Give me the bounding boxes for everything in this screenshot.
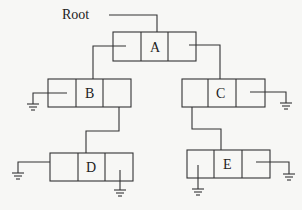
ground-icon [192,165,204,195]
node-C: C [182,79,265,107]
edge-A-C [189,45,220,79]
ground-icon [114,170,126,196]
edge-C-E [192,107,221,150]
tree-diagram: Root A B C D [0,0,302,210]
node-label: B [85,86,94,101]
root-pointer [109,15,157,32]
ground-icon [12,162,50,179]
node-label: A [150,40,161,55]
node-label: E [223,157,232,172]
node-label: D [86,160,96,175]
ground-icon [256,162,295,180]
root-label: Root [62,7,89,22]
ground-icon [250,92,292,109]
node-label: C [216,86,225,101]
edge-B-D [86,107,119,153]
node-D: D [50,153,133,181]
node-E: E [187,150,270,178]
edge-A-B [93,46,126,79]
